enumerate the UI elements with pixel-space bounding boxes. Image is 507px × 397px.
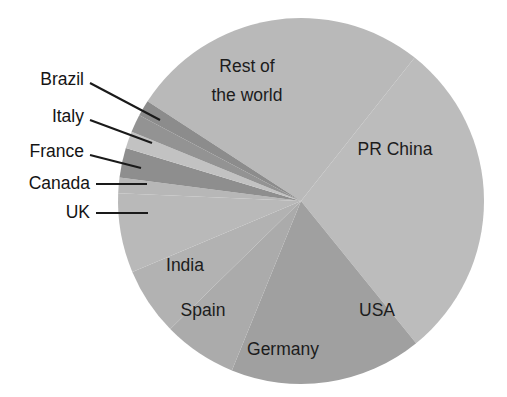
slice-label-france: France (30, 141, 84, 161)
slice-label-india: India (166, 255, 204, 275)
pie-chart-figure: Rest ofthe worldPR ChinaUSAGermanySpainI… (0, 0, 507, 397)
slice-label-brazil: Brazil (40, 69, 84, 89)
slice-label-rest-of-the-world-line1: Rest of (219, 56, 275, 76)
pie-chart-canvas: Rest ofthe worldPR ChinaUSAGermanySpainI… (0, 0, 507, 397)
pie-slices-group (118, 18, 484, 384)
slice-label-pr-china: PR China (358, 139, 433, 159)
slice-label-uk: UK (66, 202, 91, 222)
slice-label-spain: Spain (181, 300, 226, 320)
slice-label-rest-of-the-world-line2: the world (211, 85, 282, 105)
slice-label-italy: Italy (52, 106, 84, 126)
slice-label-germany: Germany (247, 339, 319, 359)
slice-label-usa: USA (359, 300, 395, 320)
slice-label-canada: Canada (29, 173, 91, 193)
